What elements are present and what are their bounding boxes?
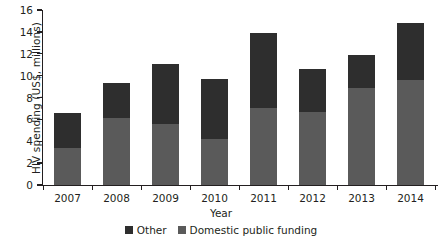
chart-legend: OtherDomestic public funding xyxy=(0,224,442,236)
y-axis-tick-label: 12 xyxy=(1,48,33,60)
x-axis-tick xyxy=(190,185,191,190)
x-axis-tick-label: 2013 xyxy=(348,192,375,204)
x-axis-tick-label: 2012 xyxy=(299,192,326,204)
x-axis-tick xyxy=(239,185,240,190)
bar-segment-other xyxy=(103,83,130,118)
x-axis-tick-label: 2007 xyxy=(54,192,81,204)
bar-segment-other xyxy=(250,33,277,108)
bar-segment-domestic-public-funding xyxy=(54,148,81,185)
x-axis-tick xyxy=(92,185,93,190)
bar-segment-domestic-public-funding xyxy=(152,124,179,185)
legend-swatch-icon xyxy=(178,226,186,234)
x-axis-title: Year xyxy=(0,207,442,219)
bar-segment-other xyxy=(152,64,179,124)
legend-label: Other xyxy=(137,224,167,236)
bar-stack xyxy=(397,23,424,185)
bar-stack xyxy=(152,64,179,185)
y-axis-tick-label: 2 xyxy=(1,157,33,169)
x-axis-tick xyxy=(337,185,338,190)
legend-swatch-icon xyxy=(125,226,133,234)
y-axis-tick-label: 16 xyxy=(1,4,33,16)
hiv-spending-stacked-bar-chart: HIV spending (US$, millions) 02468101214… xyxy=(0,0,442,241)
bar-segment-other xyxy=(299,69,326,112)
plot-area xyxy=(43,10,435,185)
x-axis-tick-label: 2009 xyxy=(152,192,179,204)
bar-segment-domestic-public-funding xyxy=(250,108,277,185)
bar-segment-other xyxy=(54,113,81,148)
x-axis-tick xyxy=(386,185,387,190)
y-axis-labels: 0246810121416 xyxy=(0,0,33,241)
bar-stack xyxy=(250,33,277,185)
y-axis-tick-label: 14 xyxy=(1,26,33,38)
y-axis-tick-label: 0 xyxy=(1,179,33,191)
x-axis-tick xyxy=(288,185,289,190)
bar-stack xyxy=(201,79,228,185)
bar-segment-domestic-public-funding xyxy=(348,88,375,185)
bar-segment-domestic-public-funding xyxy=(103,118,130,185)
x-axis-tick xyxy=(141,185,142,190)
x-axis-tick-label: 2011 xyxy=(250,192,277,204)
y-axis-tick-label: 8 xyxy=(1,92,33,104)
x-axis-tick xyxy=(435,185,436,190)
legend-item: Domestic public funding xyxy=(178,224,318,236)
bar-segment-domestic-public-funding xyxy=(201,139,228,185)
bar-segment-domestic-public-funding xyxy=(397,80,424,185)
bar-segment-other xyxy=(201,79,228,139)
y-axis-tick-label: 6 xyxy=(1,113,33,125)
bar-stack xyxy=(103,83,130,185)
x-axis-tick-label: 2014 xyxy=(397,192,424,204)
legend-item: Other xyxy=(125,224,167,236)
y-axis-tick-label: 10 xyxy=(1,70,33,82)
y-axis-tick-label: 4 xyxy=(1,135,33,147)
bar-stack xyxy=(54,113,81,185)
bar-stack xyxy=(299,69,326,185)
bar-stack xyxy=(348,55,375,185)
x-axis-tick-label: 2008 xyxy=(103,192,130,204)
legend-label: Domestic public funding xyxy=(190,224,318,236)
bar-segment-other xyxy=(348,55,375,88)
bar-segment-other xyxy=(397,23,424,80)
bar-segment-domestic-public-funding xyxy=(299,112,326,185)
x-axis-tick xyxy=(43,185,44,190)
x-axis-tick-label: 2010 xyxy=(201,192,228,204)
